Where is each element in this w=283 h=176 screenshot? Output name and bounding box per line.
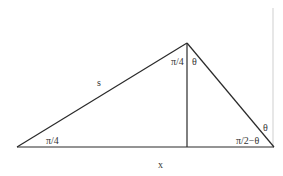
side-s-line (17, 43, 187, 147)
label-angle-right-outer: θ (263, 122, 268, 133)
label-angle-right: π/2−θ (236, 135, 259, 146)
right-side-line (187, 43, 274, 147)
label-angle-apex-left: π/4 (171, 56, 184, 67)
label-base-x: x (158, 159, 163, 170)
label-angle-left: π/4 (46, 135, 59, 146)
triangle-diagram: s π/4 θ π/4 π/2−θ θ x (0, 0, 283, 176)
label-side-s: s (97, 77, 101, 88)
label-angle-apex-right: θ (192, 56, 197, 67)
